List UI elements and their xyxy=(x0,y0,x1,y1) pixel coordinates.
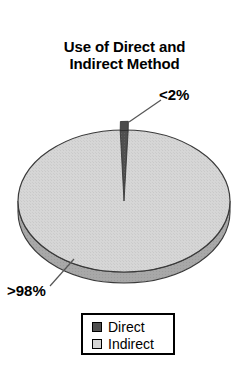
legend-label-indirect: Indirect xyxy=(108,337,154,352)
pie-chart-figure: Use of Direct and Indirect Method xyxy=(0,0,249,373)
leader-line-direct xyxy=(129,100,161,122)
legend-swatch-indirect xyxy=(92,339,102,349)
legend-item-indirect: Indirect xyxy=(92,336,173,352)
legend-label-direct: Direct xyxy=(108,320,145,335)
chart-legend: Direct Indirect xyxy=(81,313,175,355)
legend-swatch-direct xyxy=(92,322,102,332)
legend-item-direct: Direct xyxy=(92,319,173,335)
data-label-direct: <2% xyxy=(159,87,189,103)
data-label-indirect: >98% xyxy=(7,283,46,299)
